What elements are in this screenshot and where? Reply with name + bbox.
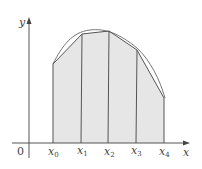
x-axis-arrow-icon xyxy=(183,141,190,146)
y-axis-label: y xyxy=(18,16,26,29)
node-label-x3: x3 xyxy=(131,144,142,158)
origin-label: 0 xyxy=(17,145,24,158)
node-label-x0: x0 xyxy=(48,145,59,159)
x-axis-label: x xyxy=(183,146,190,159)
node-labels: x0 x1 x2 x3 x4 xyxy=(48,144,170,159)
trapezoid-diagram: y x 0 x0 x1 x2 x3 x4 xyxy=(0,0,202,169)
node-label-x1: x1 xyxy=(77,144,88,158)
node-label-x4: x4 xyxy=(159,145,170,159)
node-label-x2: x2 xyxy=(104,145,115,159)
y-axis-arrow-icon xyxy=(27,17,32,24)
